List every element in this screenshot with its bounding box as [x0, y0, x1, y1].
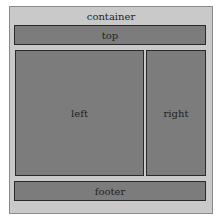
- footer-box: footer: [14, 181, 206, 201]
- top-label: top: [102, 30, 118, 41]
- right-box: right: [146, 50, 206, 176]
- top-box: top: [14, 25, 206, 45]
- footer-label: footer: [95, 186, 125, 197]
- container-label: container: [87, 11, 135, 22]
- right-label: right: [164, 108, 189, 119]
- left-label: left: [71, 108, 88, 119]
- left-box: left: [15, 50, 144, 176]
